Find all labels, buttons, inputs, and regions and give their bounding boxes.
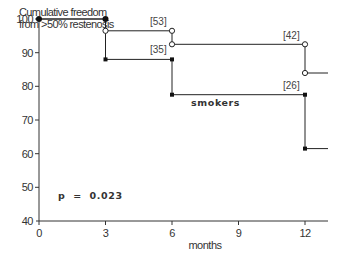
x-axis	[36, 221, 328, 225]
y-tick-60: 60	[22, 148, 34, 160]
x-tick-12: 12	[299, 227, 311, 239]
series-nonsmokers	[39, 19, 328, 73]
smokers-label: smokers	[191, 97, 240, 108]
y-tick-80: 80	[22, 80, 34, 92]
x-tick-0: 0	[36, 227, 42, 239]
x-tick-3: 3	[103, 227, 109, 239]
y-tick-50: 50	[22, 181, 34, 193]
y-tick-labels: 100 90 80 70 60 50 40	[16, 13, 33, 227]
y-tick-90: 90	[22, 47, 34, 59]
at-risk-label-26: [26]	[283, 80, 300, 91]
y-tick-70: 70	[22, 114, 34, 126]
y-tick-40: 40	[22, 215, 34, 227]
x-tick-labels: 0 3 6 9 12 months	[36, 227, 311, 251]
nonsmoker-markers	[103, 28, 308, 75]
x-axis-label: months	[188, 239, 222, 251]
at-risk-label-53: [53]	[150, 16, 167, 27]
km-chart: 100 90 80 70 60 50 40 0 3 6 9 12 months	[0, 0, 346, 261]
y-tick-100: 100	[16, 13, 33, 25]
y-axis	[35, 19, 39, 221]
at-risk-label-35: [35]	[150, 44, 167, 55]
at-risk-label-42: [42]	[283, 30, 300, 41]
p-value-label: p = 0.023	[58, 190, 123, 201]
x-tick-6: 6	[169, 227, 175, 239]
x-tick-9: 9	[236, 227, 242, 239]
